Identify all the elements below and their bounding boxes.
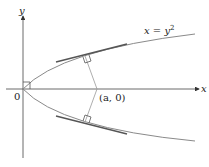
- origin-label: 0: [14, 91, 20, 102]
- y-axis-label: y: [18, 5, 25, 16]
- equation-label: x = y2: [144, 24, 175, 36]
- x-axis-label: x: [201, 83, 207, 94]
- parabola-curve: [23, 34, 195, 141]
- lower-tangent-line: [56, 116, 127, 134]
- upper-tangent-line: [56, 44, 127, 62]
- parabola-normal-diagram: y x 0 x = y2 (a, 0): [0, 0, 209, 167]
- point-a-label: (a, 0): [99, 92, 126, 103]
